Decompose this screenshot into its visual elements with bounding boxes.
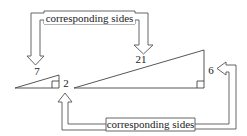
small-hypotenuse-label: 7	[34, 65, 40, 77]
small-leg-label: 2	[63, 77, 69, 89]
similar-triangles-diagram: corresponding sides 7 2 21 6 correspondi…	[0, 0, 247, 136]
bottom-label: corresponding sides	[107, 118, 195, 130]
large-leg-label: 6	[208, 64, 214, 76]
top-label: corresponding sides	[46, 12, 134, 24]
large-hypotenuse-label: 21	[136, 53, 147, 65]
